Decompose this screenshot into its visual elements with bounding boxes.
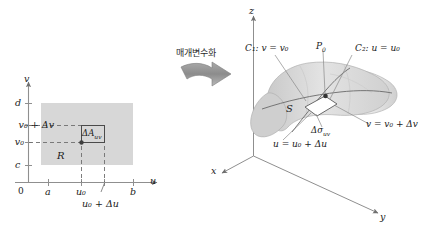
transform-arrow-group	[181, 62, 231, 86]
v-tick-label-v0-plus-dv: v₀ + Δv	[0, 120, 54, 130]
y-axis-label: y	[380, 212, 385, 222]
v-tick-label-v0: v₀	[6, 137, 24, 147]
u-tick-label-a: a	[45, 187, 51, 197]
v-axis-label: v	[24, 74, 29, 84]
x-axis-label: x	[211, 166, 216, 176]
u0du-leader	[101, 183, 105, 192]
surface-S-label: S	[286, 104, 293, 114]
region-R-label: R	[57, 151, 65, 161]
y-axis-line	[254, 156, 379, 213]
v-tick-label-c: c	[15, 160, 20, 170]
u-tick-label-b: b	[130, 187, 136, 197]
transform-arrow	[181, 62, 231, 86]
curve-C1-label: C₁: v = v₀	[245, 44, 288, 53]
parameterization-caption: 매개변수화	[176, 49, 216, 58]
figure-graphics	[0, 0, 435, 231]
point-P0-label: P0	[316, 41, 326, 53]
z-axis-label: z	[249, 6, 254, 16]
u-tick-label-u0: u₀	[76, 187, 86, 197]
parameterization-figure: v u 0 d v₀ + Δv v₀ c a u₀ u₀ + Δu b R ΔA…	[0, 0, 435, 231]
corner-point	[79, 140, 83, 144]
patch-dA-label: ΔAuv	[82, 128, 102, 140]
patch-dsigma-label-main: Δσ	[311, 125, 323, 135]
u-axis-label: u	[150, 176, 156, 186]
patch-dA-label-sub: uv	[94, 133, 101, 140]
x-axis-line	[222, 156, 254, 173]
point-P0	[323, 94, 328, 99]
point-P0-label-sub: 0	[322, 46, 326, 53]
patch-dsigma-label: Δσuv	[311, 125, 330, 137]
patch-dsigma-label-sub: uv	[323, 130, 330, 137]
curve-C2-label: C₂: u = u₀	[355, 44, 400, 53]
u-tick-label-u0-plus-du: u₀ + Δu	[82, 199, 119, 209]
origin-label: 0	[18, 187, 24, 196]
edge-v-label: v = v₀ + Δv	[366, 120, 418, 129]
patch-dA-label-main: ΔA	[82, 128, 94, 138]
edge-u-label: u = u₀ + Δu	[273, 140, 327, 149]
v-tick-label-d: d	[15, 98, 21, 108]
